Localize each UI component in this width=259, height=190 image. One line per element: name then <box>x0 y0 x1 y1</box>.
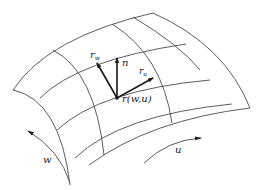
label-u-direction: u <box>175 145 181 155</box>
label-w-direction: w <box>43 155 52 165</box>
grid-curve-u3 <box>133 17 200 70</box>
direction-arrows <box>28 131 201 183</box>
u-direction-arrow <box>144 138 201 163</box>
surface-point <box>115 96 119 100</box>
label-r-u-subscript: u <box>143 70 147 77</box>
patch-edge-bottom <box>89 108 250 165</box>
label-point-r-w-u: r(w,u) <box>122 94 152 104</box>
grid-curve-w2 <box>57 80 210 130</box>
label-r-w: rw <box>90 50 100 61</box>
patch-edge-top-right <box>153 13 250 108</box>
label-r-u: ru <box>139 67 147 77</box>
patch-edge-left <box>13 90 70 185</box>
grid-curve-u1 <box>53 50 104 155</box>
label-n: n <box>122 58 128 68</box>
patch-edge-top-left <box>13 13 153 90</box>
tangent-vector-rw <box>97 63 117 98</box>
label-r-w-subscript: w <box>95 54 100 61</box>
